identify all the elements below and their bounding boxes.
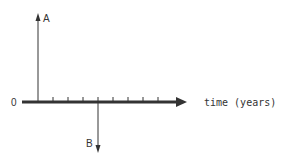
origin-label: 0: [11, 97, 17, 108]
vector-b-label: B: [86, 138, 93, 149]
vector-a-label: A: [43, 13, 50, 24]
axis-label: time (years): [204, 97, 276, 108]
arrow-up-icon: [36, 13, 41, 21]
cash-flow-diagram: A B 0 time (years): [0, 0, 301, 157]
axis-arrowhead-icon: [176, 97, 187, 107]
arrow-down-icon: [96, 145, 101, 153]
